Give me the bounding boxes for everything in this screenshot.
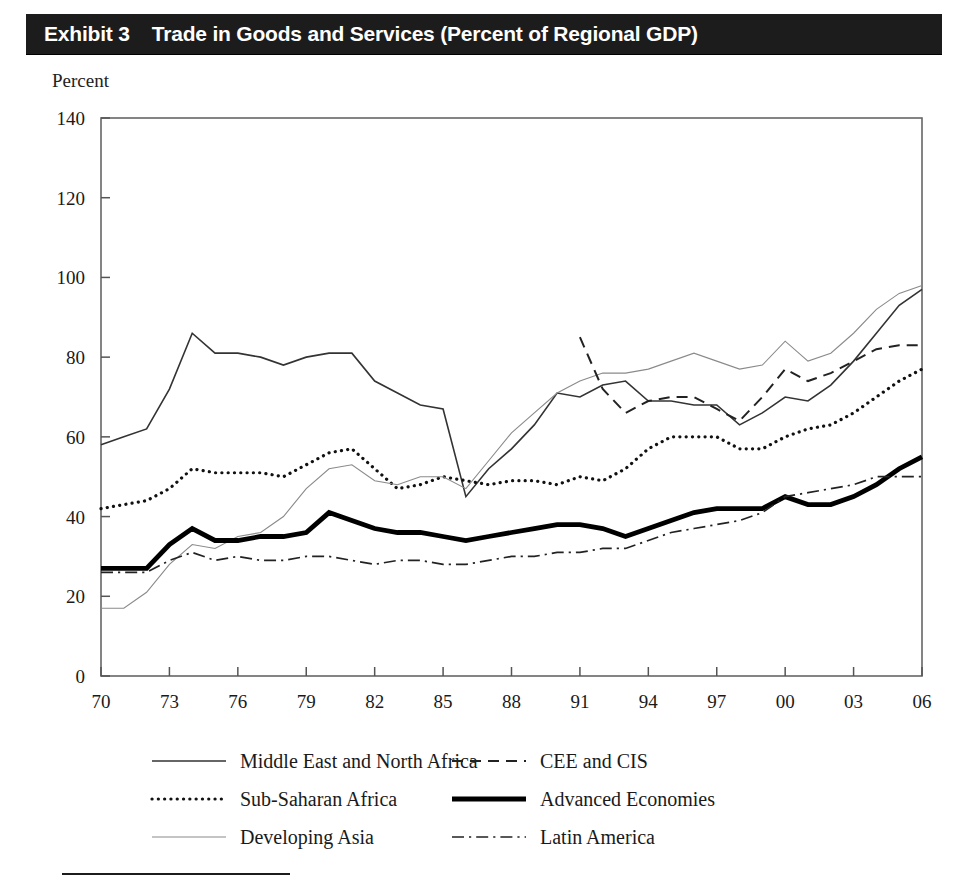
- legend-item-label: Advanced Economies: [540, 788, 715, 811]
- x-axis-tick-label: 79: [297, 691, 316, 712]
- series-line: [580, 337, 922, 421]
- legend-item[interactable]: Sub-Saharan Africa: [150, 780, 450, 818]
- y-axis-tick-label: 40: [66, 507, 85, 528]
- x-axis-tick-label: 85: [434, 691, 453, 712]
- line-dashed-icon: [450, 752, 528, 770]
- y-axis-tick-label: 60: [66, 427, 85, 448]
- series-line: [101, 285, 922, 608]
- y-axis-tick-label: 20: [66, 586, 85, 607]
- legend-item[interactable]: CEE and CIS: [450, 742, 770, 780]
- x-axis-tick-label: 88: [502, 691, 521, 712]
- chart-legend: Middle East and North AfricaCEE and CISS…: [150, 742, 870, 856]
- legend-item[interactable]: Advanced Economies: [450, 780, 770, 818]
- series-line: [101, 477, 922, 573]
- exhibit-title-bar: Exhibit 3 Trade in Goods and Services (P…: [26, 14, 942, 54]
- x-axis-tick-label: 70: [92, 691, 111, 712]
- line-bold-icon: [450, 790, 528, 808]
- y-axis-tick-label: 80: [66, 347, 85, 368]
- exhibit-figure: Exhibit 3 Trade in Goods and Services (P…: [0, 0, 980, 887]
- series-line: [101, 457, 922, 569]
- series-line: [101, 369, 922, 509]
- line-chart: 0204060801001201407073767982858891949700…: [0, 0, 980, 740]
- plot-frame: [101, 118, 922, 676]
- x-axis-tick-label: 73: [160, 691, 179, 712]
- line-solid-icon: [150, 752, 228, 770]
- x-axis-tick-label: 94: [639, 691, 659, 712]
- page-title: Trade in Goods and Services (Percent of …: [152, 22, 698, 46]
- y-axis-tick-label: 100: [57, 267, 86, 288]
- legend-item-label: Middle East and North Africa: [240, 750, 478, 773]
- x-axis-tick-label: 82: [365, 691, 384, 712]
- line-dash-dot-icon: [450, 828, 528, 846]
- legend-item[interactable]: Developing Asia: [150, 818, 450, 856]
- x-axis-tick-label: 76: [228, 691, 247, 712]
- footnote-rule: [62, 873, 290, 875]
- x-axis-tick-label: 97: [707, 691, 726, 712]
- line-dotted-icon: [150, 790, 228, 808]
- exhibit-label: Exhibit 3: [44, 22, 130, 46]
- legend-item-label: Developing Asia: [240, 826, 374, 849]
- y-axis-tick-label: 120: [57, 188, 86, 209]
- legend-item[interactable]: Latin America: [450, 818, 770, 856]
- x-axis-tick-label: 91: [570, 691, 589, 712]
- y-axis-tick-label: 140: [57, 108, 86, 129]
- legend-item-label: Sub-Saharan Africa: [240, 788, 397, 811]
- exhibit-title-inner: Exhibit 3 Trade in Goods and Services (P…: [26, 22, 698, 46]
- x-axis-tick-label: 06: [913, 691, 932, 712]
- legend-item-label: Latin America: [540, 826, 655, 849]
- y-axis-tick-label: 0: [76, 666, 86, 687]
- y-axis-unit-caption: Percent: [52, 70, 109, 92]
- legend-item[interactable]: Middle East and North Africa: [150, 742, 450, 780]
- series-line: [101, 289, 922, 496]
- x-axis-tick-label: 00: [776, 691, 795, 712]
- x-axis-tick-label: 03: [844, 691, 863, 712]
- legend-item-label: CEE and CIS: [540, 750, 648, 773]
- line-thin-icon: [150, 828, 228, 846]
